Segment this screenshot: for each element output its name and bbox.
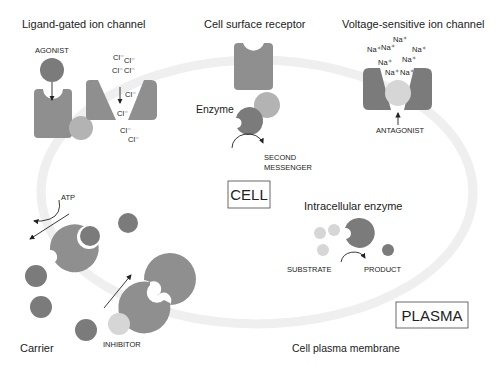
carrier-protein-lower	[144, 253, 196, 305]
cell-box: CELL	[228, 181, 270, 208]
product-label: PRODUCT	[364, 265, 402, 274]
chloride-ion: Cl⁻	[125, 90, 136, 99]
substrate-molecule	[314, 227, 326, 239]
second-messenger-label-1: SECOND	[264, 153, 297, 162]
ligand-gated-title: Ligand-gated ion channel	[22, 18, 146, 30]
inhibitor-label: INHIBITOR	[103, 340, 141, 349]
transported-molecule	[118, 213, 138, 233]
agonist-molecule	[40, 58, 64, 82]
cell-box-label: CELL	[230, 186, 268, 203]
chloride-ion: Cl⁻	[124, 66, 135, 75]
voltage-sensitive-title: Voltage-sensitive ion channel	[342, 18, 484, 30]
channel-left-half	[86, 80, 116, 120]
chloride-ion: Cl⁻	[113, 53, 124, 62]
voltage-sensitive-ion-channel: Voltage-sensitive ion channel Na⁺ Na⁺ Na…	[342, 18, 484, 135]
chloride-ion: Cl⁻	[120, 126, 131, 135]
sodium-ion: Na⁺	[385, 68, 399, 77]
agonist-label: AGONIST	[35, 46, 69, 55]
cell-surface-receptor: Cell surface receptor Enzyme SECOND MESS…	[196, 18, 313, 172]
product-molecule	[382, 244, 394, 256]
sodium-ion: Na⁺	[412, 45, 426, 54]
membrane-label: Cell plasma membrane	[292, 342, 400, 354]
sodium-ion: Na⁺	[393, 35, 407, 44]
antagonist-label: ANTAGONIST	[376, 126, 425, 135]
intracellular-enzyme-protein	[345, 218, 375, 248]
substrate-molecule	[328, 224, 340, 236]
sodium-ion: Na⁺	[381, 43, 395, 52]
cell-surface-receptor-title: Cell surface receptor	[204, 18, 306, 30]
atp-label: ATP	[61, 193, 75, 202]
pharmacology-targets-diagram: Ligand-gated ion channel AGONIST Cl⁻ Cl⁻…	[0, 0, 501, 367]
transported-molecule	[80, 226, 100, 246]
chloride-ion: Cl⁻	[112, 66, 123, 75]
enzyme-protein	[236, 107, 263, 135]
inhibitor-molecule	[108, 313, 130, 335]
intracellular-enzyme: Intracellular enzyme SUBSTRATE PRODUCT	[287, 200, 402, 274]
intracellular-enzyme-title: Intracellular enzyme	[304, 200, 402, 212]
antagonist-molecule	[385, 80, 411, 106]
transported-molecule	[25, 265, 47, 287]
carrier-title: Carrier	[20, 342, 54, 354]
sodium-ion: Na⁺	[367, 45, 381, 54]
sodium-ion: Na⁺	[402, 55, 416, 64]
plasma-box: PLASMA	[396, 302, 468, 328]
substrate-label: SUBSTRATE	[287, 265, 331, 274]
substrate-molecule	[317, 244, 329, 256]
enzyme-label: Enzyme	[196, 103, 234, 115]
transported-molecule	[75, 319, 97, 341]
sodium-ion: Na⁺	[378, 58, 392, 67]
sodium-ion: Na⁺	[400, 68, 414, 77]
chloride-ion: Cl⁻	[124, 56, 135, 65]
chloride-ion: Cl⁻	[117, 109, 128, 118]
receptor-protein	[34, 89, 72, 138]
transported-molecule	[30, 296, 52, 318]
surface-receptor-protein	[234, 43, 273, 90]
plasma-box-label: PLASMA	[402, 307, 463, 324]
second-messenger-label-2: MESSENGER	[264, 163, 313, 172]
chloride-ion: Cl⁻	[128, 135, 139, 144]
